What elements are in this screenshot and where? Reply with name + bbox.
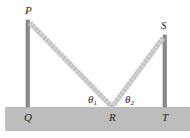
label-theta2: θ2 [125, 94, 134, 107]
path-pr [30, 23, 112, 107]
diagram-canvas: P Q R S T θ1 θ2 [0, 0, 190, 138]
label-p: P [25, 5, 32, 16]
label-theta1: θ1 [88, 94, 97, 107]
theta2-subscript: 2 [130, 99, 134, 107]
pole-st [163, 35, 167, 107]
theta1-subscript: 1 [93, 99, 97, 107]
label-t: T [162, 112, 168, 123]
label-r: R [109, 112, 116, 123]
label-q: Q [24, 112, 32, 123]
pole-pq [26, 20, 30, 107]
label-s: S [161, 20, 167, 31]
